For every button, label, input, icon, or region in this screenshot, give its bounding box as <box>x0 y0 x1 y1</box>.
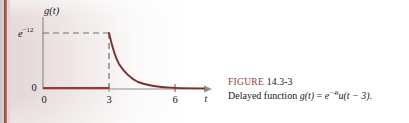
book-spine-inner <box>7 0 10 123</box>
y-tick-label-emax: e−12 <box>18 26 34 38</box>
caption-equals: = <box>314 91 325 102</box>
figure-caption-text: Delayed function g(t) = e−4tu(t − 3). <box>228 89 406 102</box>
y-tick-label-zero: 0 <box>31 82 36 93</box>
x-tick-label-6: 6 <box>172 94 177 105</box>
figure-page: g(t) e−12 0 0 3 6 t FIGURE 14.3-3 Delaye… <box>0 0 409 123</box>
caption-unit-step: u(t − 3). <box>338 91 372 102</box>
graph-svg: g(t) e−12 0 0 3 6 t <box>18 2 218 114</box>
x-axis-variable-label: t <box>205 93 208 104</box>
curve-exponential-decay <box>109 33 204 88</box>
figure-label-prefix: FIGURE <box>228 77 264 87</box>
caption-function-name: g(t) <box>300 91 314 102</box>
x-tick-label-0: 0 <box>41 94 46 105</box>
caption-lead-text: Delayed function <box>228 91 300 102</box>
x-axis-arrow-icon <box>204 86 212 93</box>
figure-caption-heading: FIGURE 14.3-3 <box>228 76 406 88</box>
x-tick-label-3: 3 <box>106 94 111 105</box>
graph-plot: g(t) e−12 0 0 3 6 t <box>18 2 218 114</box>
y-axis-label: g(t) <box>44 5 60 17</box>
figure-number-value: 14.3-3 <box>267 76 293 87</box>
figure-caption: FIGURE 14.3-3 Delayed function g(t) = e−… <box>228 76 406 102</box>
